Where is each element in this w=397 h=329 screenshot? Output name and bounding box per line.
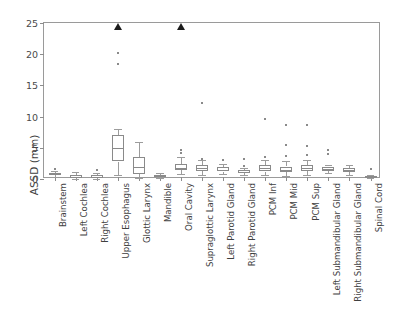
whisker-cap-upper [93, 173, 101, 174]
outlier-point [117, 63, 119, 65]
x-tick-mark [328, 177, 329, 181]
plot-area: 0510152025 BrainstemLeft CochleaRight Co… [43, 22, 380, 178]
y-tick-label: 5 [32, 142, 38, 153]
y-tick-mark [40, 23, 44, 24]
whisker-cap-upper [303, 160, 311, 161]
median-line [175, 168, 187, 169]
y-tick-mark [40, 54, 44, 55]
outlier-point [370, 168, 372, 170]
outlier-point [306, 154, 308, 156]
whisker-cap-lower [346, 175, 354, 176]
median-line [217, 170, 229, 171]
y-tick-mark [40, 85, 44, 86]
x-tick-mark [223, 177, 224, 181]
x-tick-label: PCM Inf [268, 183, 278, 215]
x-tick-label: Upper Esophagus [121, 183, 131, 258]
y-tick-mark [40, 179, 44, 180]
whisker-cap-lower [325, 173, 333, 174]
outlier-point [117, 52, 119, 54]
x-tick-label: Left Submandibular Gland [332, 183, 342, 295]
whisker-cap-upper [198, 160, 206, 161]
y-tick-label: 10 [26, 111, 38, 122]
whisker-cap-lower [282, 176, 290, 177]
outlier-point [327, 149, 329, 151]
median-line [322, 169, 334, 170]
x-tick-label: Mandible [163, 183, 173, 222]
median-line [280, 170, 292, 171]
y-tick-label: 0 [32, 174, 38, 185]
outlier-point [264, 118, 266, 120]
whisker-cap-lower [114, 175, 122, 176]
x-tick-mark [307, 177, 308, 181]
x-tick-mark [349, 177, 350, 181]
whisker-cap-lower [93, 179, 101, 180]
x-tick-label: Glottic Larynx [142, 183, 152, 243]
x-tick-mark [286, 177, 287, 181]
median-line [91, 177, 103, 178]
y-tick-label: 20 [26, 49, 38, 60]
x-tick-mark [265, 177, 266, 181]
outlier-point [201, 102, 203, 104]
whisker-cap-upper [240, 168, 248, 169]
median-line [154, 176, 166, 177]
outlier-point [306, 124, 308, 126]
whisker-cap-lower [261, 175, 269, 176]
median-line [133, 167, 145, 168]
whisker-cap-upper [114, 129, 122, 130]
outlier-point [327, 153, 329, 155]
outlier-point [264, 156, 266, 158]
outlier-point [54, 168, 56, 170]
whisker-cap-upper [282, 161, 290, 162]
y-tick-mark [40, 148, 44, 149]
whisker-cap-upper [261, 160, 269, 161]
whisker-cap-lower [51, 177, 59, 178]
whisker-upper [181, 157, 182, 165]
outlier-point [285, 124, 287, 126]
x-tick-label: Right Submandibular Gland [353, 183, 363, 302]
x-tick-label: Spinal Cord [374, 183, 384, 232]
whisker-cap-upper [177, 157, 185, 158]
outlier-point [180, 149, 182, 151]
median-line [238, 172, 250, 173]
whisker-upper [139, 142, 140, 158]
y-tick-mark [40, 117, 44, 118]
x-tick-mark [202, 177, 203, 181]
median-line [196, 168, 208, 169]
whisker-cap-lower [156, 178, 164, 179]
outlier-point [285, 144, 287, 146]
x-tick-label: Left Cochlea [79, 183, 89, 236]
outlier-point [243, 158, 245, 160]
x-tick-label: Right Parotid Gland [247, 183, 257, 266]
whisker-cap-upper [51, 171, 59, 172]
outlier-point [285, 155, 287, 157]
boxplot-figure: ASSD (mm) 0510152025 BrainstemLeft Cochl… [0, 0, 397, 329]
whisker-cap-upper [325, 165, 333, 166]
whisker-cap-lower [198, 175, 206, 176]
outlier-triangle-marker [177, 23, 185, 30]
median-line [112, 148, 124, 149]
median-line [365, 177, 377, 178]
median-line [259, 168, 271, 169]
outlier-point [201, 158, 203, 160]
whisker-cap-lower [367, 178, 375, 179]
whisker-cap-upper [135, 142, 143, 143]
whisker-cap-lower [135, 178, 143, 179]
whisker-cap-lower [303, 175, 311, 176]
x-tick-label: Oral Cavity [184, 183, 194, 231]
outlier-point [96, 169, 98, 171]
whisker-cap-upper [346, 165, 354, 166]
whisker-cap-upper [219, 164, 227, 165]
whisker-cap-lower [240, 175, 248, 176]
whisker-cap-upper [72, 172, 80, 173]
median-line [343, 170, 355, 171]
median-line [301, 168, 313, 169]
median-line [49, 174, 61, 175]
x-tick-label: Brainstem [58, 183, 68, 227]
whisker-lower [118, 162, 119, 175]
y-tick-label: 25 [26, 18, 38, 29]
x-tick-mark [118, 177, 119, 181]
x-tick-label: Right Cochlea [100, 183, 110, 243]
x-tick-label: Supraglottic Larynx [205, 183, 215, 267]
outlier-point [222, 159, 224, 161]
x-tick-label: PCM Mid [289, 183, 299, 220]
